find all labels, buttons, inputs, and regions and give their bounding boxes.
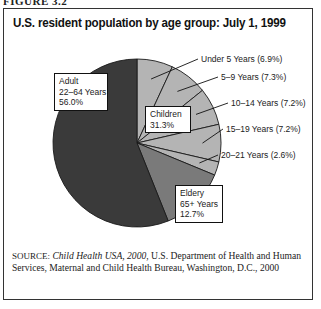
children-box-line-2: 31.3% bbox=[150, 120, 187, 131]
adult-group-box: Adult 22–64 Years 56.0% bbox=[54, 73, 108, 111]
source-title: Child Health USA, 2000 bbox=[52, 250, 146, 261]
adult-box-line-1: Adult bbox=[59, 76, 104, 87]
elderly-group-box: Eldery 65+ Years 12.7% bbox=[175, 185, 223, 223]
children-group-box: Children 31.3% bbox=[145, 106, 191, 133]
slice-label: 10–14 Years (7.2%) bbox=[231, 98, 306, 108]
source-prefix: SOURCE: bbox=[12, 251, 50, 261]
elderly-box-line-3: 12.7% bbox=[180, 209, 219, 220]
slice-label: 5–9 Years (7.3%) bbox=[221, 72, 286, 82]
source-note: SOURCE: Child Health USA, 2000, U.S. Dep… bbox=[12, 250, 308, 274]
slice-label: Under 5 Years (6.9%) bbox=[201, 54, 282, 64]
elderly-box-line-2: 65+ Years bbox=[180, 199, 219, 210]
children-box-line-1: Children bbox=[150, 109, 187, 120]
elderly-box-line-1: Eldery bbox=[180, 188, 219, 199]
adult-box-line-2: 22–64 Years bbox=[59, 87, 104, 98]
adult-box-line-3: 56.0% bbox=[59, 97, 104, 108]
slice-label: 20–21 Years (2.6%) bbox=[221, 150, 296, 160]
slice-label: 15–19 Years (7.2%) bbox=[226, 124, 301, 134]
